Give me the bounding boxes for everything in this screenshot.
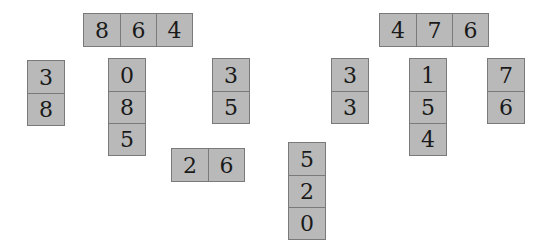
digit-tile: 6: [452, 14, 488, 46]
digit-tile: 7: [416, 14, 452, 46]
digit-tile: 1: [410, 59, 446, 91]
digit-tile: 2: [172, 149, 208, 181]
digit-tile: 0: [109, 59, 145, 91]
tile-group-476: 476: [379, 13, 489, 47]
digit-tile: 0: [289, 207, 325, 239]
digit-tile: 5: [410, 91, 446, 123]
tile-group-864: 864: [83, 13, 193, 47]
tile-group-35: 35: [212, 58, 250, 124]
tile-group-33: 33: [331, 58, 369, 124]
tile-group-154: 154: [409, 58, 447, 156]
digit-tile: 5: [109, 123, 145, 155]
digit-tile: 3: [332, 91, 368, 123]
digit-tile: 6: [488, 91, 524, 123]
digit-tile: 5: [289, 143, 325, 175]
digit-tile: 8: [84, 14, 120, 46]
digit-tile: 4: [380, 14, 416, 46]
digit-tile: 2: [289, 175, 325, 207]
tile-group-520: 520: [288, 142, 326, 240]
digit-tile: 8: [109, 91, 145, 123]
tile-group-38: 38: [27, 60, 65, 126]
digit-tile: 3: [332, 59, 368, 91]
digit-tile: 3: [213, 59, 249, 91]
digit-tile: 3: [28, 61, 64, 93]
digit-tile: 7: [488, 59, 524, 91]
tile-group-085: 085: [108, 58, 146, 156]
digit-tile: 8: [28, 93, 64, 125]
tile-group-26: 26: [171, 148, 245, 182]
digit-tile: 5: [213, 91, 249, 123]
digit-tile: 4: [156, 14, 192, 46]
digit-tile: 6: [208, 149, 244, 181]
tile-group-76: 76: [487, 58, 525, 124]
digit-tile: 4: [410, 123, 446, 155]
digit-tile: 6: [120, 14, 156, 46]
